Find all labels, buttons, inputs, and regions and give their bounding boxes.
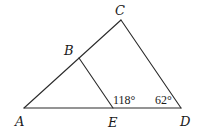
segment-ac (24, 20, 121, 108)
segment-be (79, 58, 113, 108)
point-label-d: D (179, 114, 191, 129)
point-label-b: B (63, 43, 74, 58)
triangle-diagram: A B C D E 118° 62° (0, 0, 199, 138)
point-label-a: A (14, 114, 24, 129)
point-label-c: C (115, 3, 125, 18)
angle-label-d: 62° (155, 93, 172, 107)
angle-label-e: 118° (113, 93, 136, 107)
point-label-e: E (107, 115, 118, 130)
